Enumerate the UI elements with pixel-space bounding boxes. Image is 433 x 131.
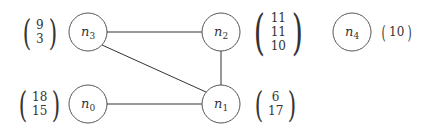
vector-n0-v0: 18 bbox=[32, 90, 47, 104]
edge-n3-n1 bbox=[102, 45, 206, 92]
node-n2-label: n bbox=[214, 24, 222, 39]
node-n1-label: n bbox=[214, 96, 222, 111]
vector-n2-v2: 10 bbox=[271, 39, 286, 53]
vector-n3-v1: 3 bbox=[36, 32, 44, 46]
vector-n2-v0: 11 bbox=[271, 11, 286, 25]
node-n1: n1 bbox=[202, 85, 240, 123]
node-n0-label: n bbox=[81, 96, 89, 111]
vector-n3-v0: 9 bbox=[36, 18, 44, 32]
vector-n2-v1: 11 bbox=[271, 25, 286, 39]
node-n3-label: n bbox=[81, 24, 89, 39]
node-n3: n3 bbox=[69, 13, 107, 51]
node-n0: n0 bbox=[69, 85, 107, 123]
node-n4: n4 bbox=[333, 13, 371, 51]
vector-n1-v0: 6 bbox=[272, 90, 280, 104]
edges bbox=[102, 32, 221, 104]
vector-n3: ( 9 3 ) bbox=[20, 14, 60, 50]
vector-n0-v1: 15 bbox=[32, 104, 47, 118]
vector-n1: ( 6 17 ) bbox=[252, 86, 299, 122]
graph-canvas: n3 n2 n1 n0 n4 bbox=[0, 0, 433, 131]
vector-n0: ( 18 15 ) bbox=[16, 86, 63, 122]
vector-n4: ( 10 ) bbox=[380, 22, 413, 42]
node-n2: n2 bbox=[202, 13, 240, 51]
vector-n2: ( 11 11 10 ) bbox=[250, 8, 307, 56]
node-n4-label: n bbox=[345, 24, 353, 39]
vector-n1-v1: 17 bbox=[268, 104, 283, 118]
vector-n4-v0: 10 bbox=[389, 25, 404, 39]
